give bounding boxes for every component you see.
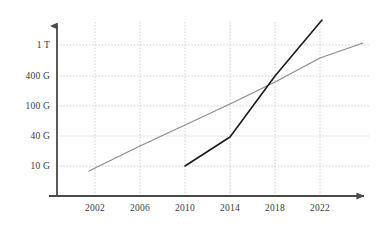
chart-plot-area <box>0 0 381 229</box>
y-tick-label-40G: 40 G <box>8 131 50 141</box>
x-tick-label-2010: 2010 <box>175 203 195 213</box>
y-tick-label-100G: 100 G <box>8 101 50 111</box>
y-tick-label-10G: 10 G <box>8 161 50 171</box>
x-tick-label-2022: 2022 <box>310 203 330 213</box>
x-tick-label-2002: 2002 <box>85 203 105 213</box>
y-tick-label-1T: 1 T <box>8 40 50 50</box>
chart-container: 1 T 400 G 100 G 40 G 10 G 2002 2006 2010… <box>0 0 381 229</box>
grid-vertical <box>95 22 320 196</box>
x-tick-label-2006: 2006 <box>130 203 150 213</box>
series-line-gray-trend <box>89 43 363 171</box>
y-tick-label-400G: 400 G <box>8 71 50 81</box>
x-tick-label-2018: 2018 <box>265 203 285 213</box>
x-tick-label-2014: 2014 <box>220 203 240 213</box>
